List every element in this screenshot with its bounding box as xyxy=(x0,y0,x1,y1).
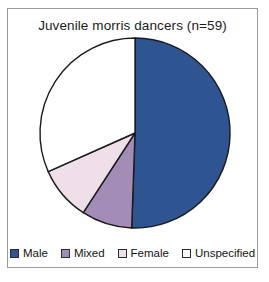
chart-frame: Juvenile morris dancers (n=59) MaleMixed… xyxy=(7,8,258,268)
legend-item-female: Female xyxy=(118,247,169,259)
legend-label: Unspecified xyxy=(195,247,255,259)
legend-label: Male xyxy=(23,247,48,259)
legend-swatch-male xyxy=(10,249,19,258)
pie-slice-male xyxy=(132,38,230,228)
legend-label: Mixed xyxy=(74,247,105,259)
legend-item-mixed: Mixed xyxy=(61,247,105,259)
legend-item-male: Male xyxy=(10,247,48,259)
pie-slice-group xyxy=(40,38,230,228)
pie-chart xyxy=(8,35,257,231)
legend-item-unspecified: Unspecified xyxy=(182,247,255,259)
legend-swatch-unspecified xyxy=(182,249,191,258)
legend-label: Female xyxy=(131,247,169,259)
chart-legend: MaleMixedFemaleUnspecified xyxy=(8,247,257,259)
chart-title: Juvenile morris dancers (n=59) xyxy=(8,18,257,33)
legend-swatch-mixed xyxy=(61,249,70,258)
pie-svg xyxy=(8,35,257,231)
legend-swatch-female xyxy=(118,249,127,258)
